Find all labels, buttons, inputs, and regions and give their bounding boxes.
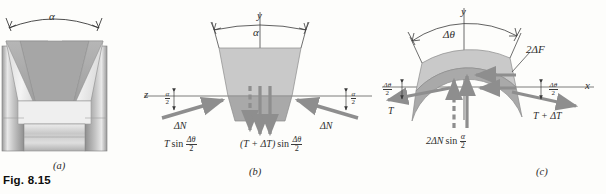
panel-c-fbd-xy: y x Δθ 2ΔF Δθ2 Δθ2 T T + ΔT 2ΔN sin α2 bbox=[380, 0, 606, 194]
panel-c-caption: (c) bbox=[536, 166, 548, 177]
y-axis-label: y bbox=[461, 6, 466, 17]
z-axis-label: z bbox=[144, 89, 148, 100]
figure-8-15: α bbox=[0, 0, 606, 194]
tension-arrow-right bbox=[512, 92, 576, 106]
delta-n-arrow-left bbox=[162, 100, 223, 118]
panel-b-fbd-zy: y z α α2 α2 ΔN ΔN T sin Δθ2 (T + ΔT) sin… bbox=[140, 0, 380, 194]
tension-right-label: (T + ΔT) sin Δθ2 bbox=[240, 136, 303, 154]
normal-resultant-label: 2ΔN sin α2 bbox=[426, 133, 467, 151]
x-axis-label: x bbox=[585, 80, 590, 91]
wedge-right-edge bbox=[510, 33, 521, 58]
panel-b-caption: (b) bbox=[249, 166, 261, 177]
delta-n-right-label: ΔN bbox=[320, 121, 333, 131]
delta-n-arrow-right bbox=[297, 100, 358, 118]
panel-a-alpha-label: α bbox=[49, 11, 55, 22]
panel-a-drawing bbox=[0, 0, 140, 160]
panel-a-caption: (a) bbox=[53, 160, 65, 171]
alpha-half-left-label: α2 bbox=[164, 91, 171, 106]
alpha-half-right-label: α2 bbox=[350, 91, 357, 106]
alpha-label: α bbox=[253, 27, 259, 38]
y-axis-label: y bbox=[257, 10, 262, 21]
panel-a-pulley-groove: α bbox=[0, 0, 140, 194]
delta-n-left-label: ΔN bbox=[174, 121, 187, 131]
figure-number-label: Fig. 8.15 bbox=[3, 174, 51, 186]
delta-theta-label: Δθ bbox=[443, 29, 455, 40]
friction-leader-line bbox=[512, 52, 530, 72]
delta-theta-half-right-label: Δθ2 bbox=[548, 82, 559, 97]
delta-theta-arc bbox=[412, 23, 517, 41]
alpha-arrow-right bbox=[92, 18, 102, 31]
pulley-hub-band bbox=[24, 124, 85, 151]
panel-c-drawing bbox=[380, 0, 606, 170]
delta-theta-arrow-left bbox=[408, 32, 420, 45]
friction-force-label: 2ΔF bbox=[526, 44, 545, 55]
tension-left-label: T sin Δθ2 bbox=[164, 136, 197, 154]
alpha-arrow-left bbox=[6, 18, 16, 31]
groove-bottom-land bbox=[18, 101, 91, 124]
delta-theta-half-left-label: Δθ2 bbox=[382, 82, 393, 97]
tension-right-label: T + ΔT bbox=[533, 111, 562, 121]
tension-left-label: T bbox=[388, 106, 394, 116]
